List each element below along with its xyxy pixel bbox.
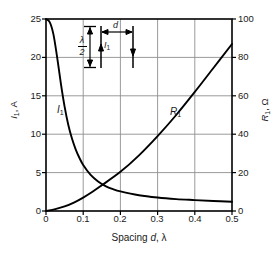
inset-current-subscript: 1 bbox=[107, 44, 111, 51]
curve-label-R1-subscript: 1 bbox=[177, 111, 181, 118]
y-left-tick-25: 25 bbox=[20, 14, 41, 24]
inset-lambda-arrowhead-down bbox=[87, 60, 92, 66]
y-left-tick-10: 10 bbox=[20, 129, 41, 139]
inset-current-label: I1 bbox=[104, 40, 110, 51]
y-left-symbol: I bbox=[8, 116, 19, 119]
y-left-tick-15: 15 bbox=[20, 91, 41, 101]
inset-lambda-symbol: λ bbox=[80, 35, 84, 45]
y-left-tick-5: 5 bbox=[20, 168, 41, 178]
x-tick-0.2: 0.2 bbox=[108, 214, 132, 224]
inset-spacing-symbol: d bbox=[113, 20, 118, 30]
x-axis-title-prefix: Spacing bbox=[111, 232, 147, 243]
inset-d-arrowhead-left bbox=[102, 30, 108, 35]
curve-label-R1: R1 bbox=[170, 106, 181, 118]
y-right-unit: Ω bbox=[259, 98, 270, 105]
y-left-axis-title: I1, A bbox=[8, 87, 20, 133]
x-tick-0: 0 bbox=[34, 214, 58, 224]
y-left-tick-20: 20 bbox=[20, 52, 41, 62]
curve-label-I1: I1 bbox=[57, 104, 64, 116]
gridlines bbox=[46, 19, 232, 211]
x-tick-0.3: 0.3 bbox=[145, 214, 169, 224]
curve-label-I1-subscript: 1 bbox=[60, 109, 64, 116]
y-right-tick-20: 20 bbox=[238, 168, 249, 178]
y-right-tick-60: 60 bbox=[238, 91, 249, 101]
y-right-tick-40: 40 bbox=[238, 129, 249, 139]
curve-resistance-R1 bbox=[46, 44, 232, 211]
curve-current-I1 bbox=[46, 19, 232, 202]
inset-current-arrow-left bbox=[99, 44, 104, 51]
tick-marks bbox=[42, 19, 236, 215]
y-right-subscript: 1 bbox=[264, 111, 271, 115]
y-left-subscript: 1 bbox=[13, 112, 20, 116]
inset-lambda-over-2: λ 2 bbox=[76, 36, 88, 57]
y-right-symbol: R bbox=[259, 115, 270, 122]
inset-current-arrow-right bbox=[131, 49, 136, 56]
y-right-tick-80: 80 bbox=[238, 52, 249, 62]
x-tick-0.1: 0.1 bbox=[71, 214, 95, 224]
inset-lambda-arrowhead-up bbox=[87, 28, 92, 34]
x-axis-title: Spacing d, λ bbox=[46, 232, 232, 243]
y-right-tick-100: 100 bbox=[238, 14, 254, 24]
figure-root: 25 20 15 10 5 0 100 80 60 40 20 0 0 0.1 … bbox=[0, 0, 274, 254]
x-tick-0.5: 0.5 bbox=[220, 214, 244, 224]
y-left-unit: A bbox=[8, 101, 19, 107]
plot-frame bbox=[46, 19, 232, 211]
inset-spacing-label: d bbox=[113, 20, 118, 30]
y-right-axis-title: R1, Ω bbox=[259, 87, 271, 133]
inset-two-symbol: 2 bbox=[79, 47, 84, 57]
inset-d-arrowhead-right bbox=[126, 30, 132, 35]
x-tick-0.4: 0.4 bbox=[183, 214, 207, 224]
x-axis-title-unit: λ bbox=[162, 232, 167, 243]
